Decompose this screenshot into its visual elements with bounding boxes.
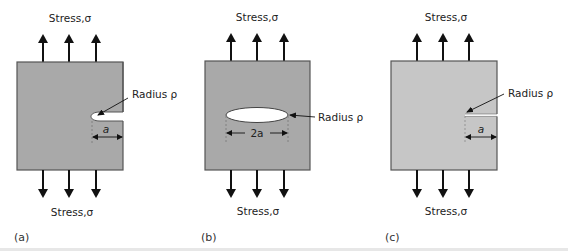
radius-label: Radius ρ [318, 111, 364, 123]
tensile-arrows-bottom [226, 170, 289, 198]
tensile-arrows-top [226, 33, 289, 61]
panel-caption: (a) [14, 231, 29, 244]
panel-b: Stress,σ 2a Radius ρ Stress,σ (b) [201, 11, 364, 244]
panel-caption: (b) [201, 231, 217, 244]
edge-notch [91, 112, 124, 121]
radius-label: Radius ρ [132, 88, 178, 100]
tensile-arrows-bottom [38, 170, 101, 198]
elliptical-hole [226, 108, 288, 123]
panel-caption: (c) [385, 231, 400, 244]
dimension-label: a [478, 123, 484, 135]
dimension-label: 2a [250, 127, 263, 139]
bottom-stress-label: Stress,σ [51, 206, 94, 218]
tensile-arrows-bottom [412, 170, 474, 198]
tensile-arrows-top [412, 33, 474, 61]
stress-concentration-figure: Stress,σ a Radius ρ Stress,σ (a) Stress,… [0, 0, 568, 251]
panel-c: Stress,σ a Radius ρ Stress,σ (c) [385, 11, 554, 244]
tensile-arrows-top [38, 34, 101, 62]
radius-label: Radius ρ [508, 87, 554, 99]
edge-crack [465, 114, 499, 116]
top-stress-label: Stress,σ [425, 11, 468, 23]
top-stress-label: Stress,σ [236, 11, 279, 23]
bottom-stress-label: Stress,σ [237, 205, 280, 217]
dimension-label: a [103, 123, 109, 135]
top-stress-label: Stress,σ [49, 12, 92, 24]
panel-a: Stress,σ a Radius ρ Stress,σ (a) [14, 12, 178, 244]
bottom-stress-label: Stress,σ [425, 205, 468, 217]
